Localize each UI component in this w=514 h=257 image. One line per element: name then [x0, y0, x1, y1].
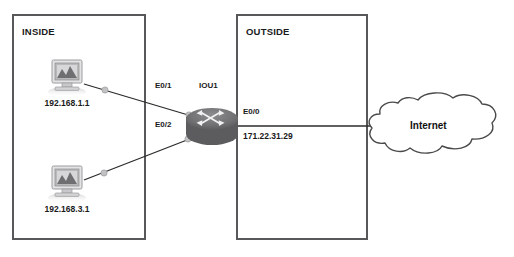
link-pc-top-to-router [84, 84, 205, 120]
link-router-to-internet [224, 122, 383, 129]
pc-top-icon [48, 60, 86, 97]
link-pc-bottom-to-router [84, 133, 205, 180]
internet-cloud-label: Internet [410, 120, 447, 131]
interface-label-e0-2: E0/2 [155, 120, 171, 129]
router-icon [186, 108, 238, 145]
pc-bottom-icon [48, 166, 86, 203]
pc-bottom-ip-label: 192.168.3.1 [37, 204, 97, 214]
interface-label-e0-1: E0/1 [155, 81, 171, 90]
outside-interface-ip-label: 171.22.31.29 [243, 131, 293, 141]
interface-label-e0-0: E0/0 [243, 107, 259, 116]
network-diagram-canvas: INSIDE OUTSIDE [0, 0, 514, 257]
router-name-label: IOU1 [199, 81, 218, 90]
pc-top-ip-label: 192.168.1.1 [37, 98, 97, 108]
